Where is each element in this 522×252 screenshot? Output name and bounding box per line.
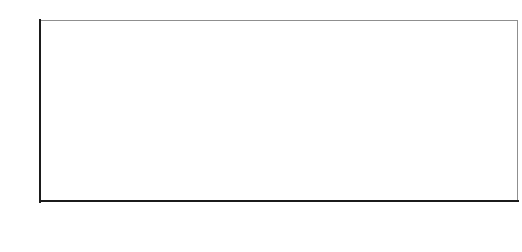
projection-band xyxy=(40,21,518,201)
chart-figure xyxy=(0,0,522,252)
plot-area xyxy=(40,21,518,201)
